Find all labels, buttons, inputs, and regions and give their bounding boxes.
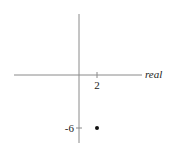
data-point-2-neg6	[95, 126, 99, 130]
x-axis-label: real	[145, 68, 162, 80]
complex-plane-plot: 2 -6 real	[0, 0, 172, 144]
x-tick-label-2: 2	[94, 79, 100, 91]
y-tick-label-neg6: -6	[65, 122, 75, 134]
